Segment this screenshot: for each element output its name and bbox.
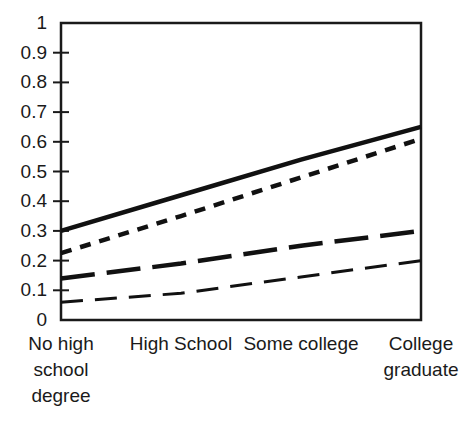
data-line-series-4: [61, 261, 421, 303]
data-line-series-3: [61, 231, 421, 279]
y-axis-tick-label: 0.3: [21, 220, 47, 241]
y-axis-tick-label: 0.9: [21, 42, 47, 63]
y-axis-tick-label: 0.4: [21, 190, 48, 211]
x-axis-category-label: High School: [130, 333, 232, 354]
y-axis-tick-label: 0.7: [21, 101, 47, 122]
plot-area-border: [61, 23, 421, 320]
line-chart: 00.10.20.30.40.50.60.70.80.91 No highsch…: [0, 0, 463, 425]
y-axis-tick-label: 0.1: [21, 279, 47, 300]
x-axis-category-label: No highschooldegree: [28, 333, 94, 406]
x-axis-category-label: Collegegraduate: [383, 333, 458, 380]
y-axis-tick-label: 0.5: [21, 161, 47, 182]
x-axis-category-labels: No highschooldegreeHigh SchoolSome colle…: [28, 333, 458, 406]
y-axis-tick-label: 0: [36, 309, 47, 330]
chart-container: 00.10.20.30.40.50.60.70.80.91 No highsch…: [0, 0, 463, 425]
y-axis-tick-label: 0.8: [21, 71, 47, 92]
y-axis-tick-label: 0.2: [21, 250, 47, 271]
y-axis-tick-label: 1: [36, 12, 47, 33]
plot-border: [61, 23, 421, 320]
x-axis-category-label: Some college: [243, 333, 358, 354]
data-line-series-1: [61, 127, 421, 231]
data-series-group: [61, 127, 421, 302]
y-axis-tick-labels: 00.10.20.30.40.50.60.70.80.91: [21, 12, 48, 330]
y-axis-tick-label: 0.6: [21, 131, 47, 152]
